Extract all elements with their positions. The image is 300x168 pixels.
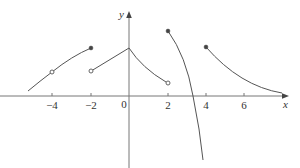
x-tick-labels: −4 −2 0 2 4 6 <box>46 98 247 111</box>
y-axis-arrow-icon <box>126 11 132 18</box>
x-axis-label: x <box>282 98 288 110</box>
curve-piece-3 <box>129 48 166 82</box>
curve-piece-2 <box>93 48 129 70</box>
filled-point-x-neg2 <box>89 46 93 50</box>
tick-label-neg2: −2 <box>85 99 97 111</box>
y-axis-label: y <box>118 8 124 20</box>
tick-label-0: 0 <box>121 98 127 110</box>
filled-point-x-4 <box>204 45 208 49</box>
tick-label-neg4: −4 <box>46 99 58 111</box>
tick-label-2: 2 <box>165 99 171 111</box>
tick-label-4: 4 <box>203 99 209 111</box>
open-point-x-2 <box>166 81 170 85</box>
filled-point-x-2 <box>166 29 170 33</box>
tick-label-6: 6 <box>241 99 247 111</box>
open-point-x-neg4 <box>50 70 54 74</box>
piecewise-function-graph: x y −4 −2 0 2 4 6 <box>0 0 300 168</box>
open-point-x-neg2 <box>89 69 93 73</box>
curve-piece-5 <box>206 47 282 93</box>
curve-piece-1 <box>28 48 91 91</box>
